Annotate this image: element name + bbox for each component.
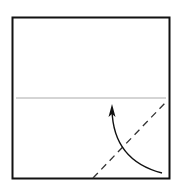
origami-diagram (0, 0, 178, 190)
